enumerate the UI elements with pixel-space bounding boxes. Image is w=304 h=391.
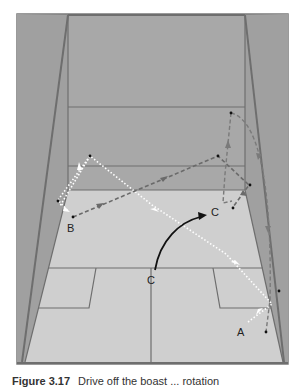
label-c-end: C (211, 206, 219, 218)
figure-number: Figure 3.17 (12, 375, 70, 387)
caption-text: Drive off the boast ... rotation (78, 375, 219, 387)
figure-caption: Figure 3.17Drive off the boast ... rotat… (12, 375, 302, 391)
label-c-start: C (147, 274, 155, 286)
front-wall (68, 15, 245, 190)
label-b: B (67, 222, 74, 234)
label-a: A (237, 326, 245, 338)
squash-court-diagram: B C C A (0, 0, 304, 372)
